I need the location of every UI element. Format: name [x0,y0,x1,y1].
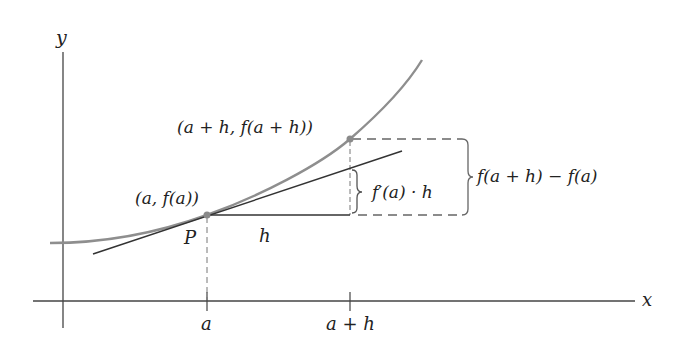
x-axis-label: x [642,289,652,310]
point-P-label: P [183,227,197,248]
point-Q-coord-label: (a + h, f(a + h)) [177,117,313,137]
brace-tangent-rise [352,170,362,213]
point-Q [347,136,354,143]
tick-label-a: a [201,313,212,334]
brace-actual-rise [462,139,473,215]
y-axis-label: y [55,26,67,48]
point-P [204,212,211,219]
point-P-coord-label: (a, f(a)) [135,188,199,208]
tangent-approximation-diagram: y x a a + h (a, f(a)) P (a + h, f(a + h)… [0,0,675,343]
run-h-label: h [259,225,271,246]
actual-rise-label: f(a + h) − f(a) [475,166,597,186]
tangent-rise-label: f′(a) · h [370,182,433,202]
tick-label-a-plus-h: a + h [326,313,375,334]
